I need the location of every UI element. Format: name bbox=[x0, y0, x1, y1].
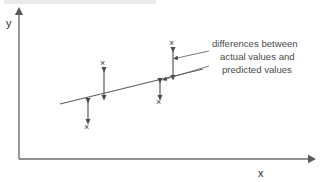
x-axis-label: x bbox=[258, 167, 264, 179]
leader-line-upper bbox=[177, 51, 209, 58]
cropped-heading-artifact bbox=[4, 0, 156, 4]
callout-line-1: differences between bbox=[212, 38, 298, 49]
data-point-marker-2: × bbox=[100, 58, 105, 68]
data-point-marker-1: × bbox=[84, 122, 89, 132]
data-point-marker-4: × bbox=[169, 38, 174, 48]
callout-line-2: actual values and bbox=[220, 51, 295, 62]
callout-line-3: predicted values bbox=[222, 64, 292, 75]
data-point-marker-3: × bbox=[156, 97, 161, 107]
figure-canvas: y x × × × × differences between actual v… bbox=[0, 0, 327, 182]
data-point-markers: × × × × bbox=[84, 38, 174, 132]
callout-text-group: differences between actual values and pr… bbox=[212, 38, 298, 75]
y-axis-label: y bbox=[6, 17, 12, 29]
regression-residuals-figure: y x × × × × differences between actual v… bbox=[0, 0, 327, 182]
